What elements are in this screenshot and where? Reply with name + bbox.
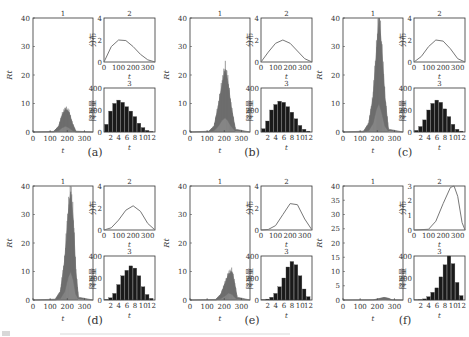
panel-title: 1 [61, 178, 65, 186]
histogram-bar [423, 299, 427, 300]
panel-3-rainfall-histogram [414, 88, 465, 132]
subfigure-svg: 01020304001002003001Rtt02401002003002分布t… [0, 168, 158, 336]
y-axis-label: Rt [162, 70, 171, 81]
x-axis-label: t [285, 144, 288, 152]
panel-1-rt-plot [33, 186, 93, 300]
x-tick-label: 200 [218, 135, 231, 143]
x-tick-label: 300 [388, 135, 401, 143]
y-tick-label: 30 [178, 43, 187, 51]
y-tick-label: 4 [255, 183, 260, 191]
y-axis-label: 分布 [398, 33, 407, 47]
y-tick-label: 25 [331, 225, 340, 233]
x-tick-label: 0 [188, 135, 192, 143]
y-tick-label: 0 [336, 297, 340, 305]
panel-title: 3 [284, 80, 288, 88]
x-tick-label: 2 [108, 134, 112, 142]
y-tick-label: 2 [255, 37, 259, 45]
y-axis-label: 降雨量 [88, 268, 97, 289]
x-tick-label: 100 [353, 303, 366, 311]
y-tick-label: 400 [246, 253, 259, 261]
x-tick-label: 0 [412, 232, 416, 240]
subfigure-svg: 01020304001002003001Rtt02401002003002分布t… [0, 0, 158, 168]
histogram-bar [427, 297, 431, 300]
y-tick-label: 40 [178, 15, 187, 23]
x-tick-label: 100 [269, 64, 282, 72]
x-tick-label: 6 [125, 302, 130, 310]
x-tick-label: 6 [125, 134, 130, 142]
histogram-bar [282, 278, 286, 300]
subfigure-c: 01020304001002003001Rtt02401002003002分布t… [310, 0, 468, 168]
x-tick-label: 300 [78, 303, 91, 311]
subfigure-caption: (d) [75, 314, 115, 327]
y-tick-label: 0 [98, 297, 102, 305]
histogram-bar [451, 264, 455, 300]
x-tick-label: 0 [102, 64, 106, 72]
histogram-bar [415, 130, 419, 132]
subfigure-d: 01020304001002003001Rtt02401002003002分布t… [0, 168, 158, 336]
x-tick-label: 8 [133, 134, 137, 142]
y-tick-label: 4 [255, 15, 260, 23]
y-tick-label: 1 [408, 212, 412, 220]
histogram-bar [278, 287, 282, 300]
histogram-bar [274, 105, 278, 133]
y-tick-label: 10 [331, 268, 340, 276]
histogram-bar [145, 130, 149, 132]
histogram-bar [266, 299, 270, 300]
y-tick-label: 30 [21, 43, 30, 51]
panel-title: 3 [127, 80, 131, 88]
x-tick-label: 0 [412, 64, 416, 72]
x-tick-label: 4 [427, 134, 432, 142]
y-axis-label: 降雨量 [88, 100, 97, 121]
x-tick-label: 200 [283, 232, 296, 240]
panel-3-rainfall-histogram [261, 88, 312, 132]
histogram-bar [125, 107, 129, 132]
x-tick-label: 8 [290, 302, 294, 310]
histogram-bar [298, 125, 302, 132]
panel-title: 1 [61, 10, 65, 18]
histogram-bar [294, 265, 298, 300]
x-tick-label: 0 [31, 303, 35, 311]
y-axis-label: 降雨量 [398, 100, 407, 121]
x-axis-label: t [372, 315, 375, 323]
y-tick-label: 2 [98, 37, 102, 45]
histogram-bar [435, 100, 439, 132]
x-tick-label: 0 [259, 232, 263, 240]
y-tick-label: 0 [336, 129, 340, 137]
histogram-bar [109, 111, 113, 132]
y-tick-label: 20 [21, 240, 30, 248]
panel-3-rainfall-histogram [104, 88, 155, 132]
x-tick-label: 12 [457, 302, 466, 310]
y-tick-label: 400 [399, 253, 412, 261]
y-tick-label: 0 [255, 297, 259, 305]
x-tick-label: 300 [141, 64, 154, 72]
panel-2-distribution-plot [261, 18, 312, 62]
y-axis-label: Rt [5, 70, 14, 81]
y-tick-label: 20 [21, 72, 30, 80]
x-tick-label: 12 [457, 134, 466, 142]
histogram-bar [270, 110, 274, 132]
histogram-bar [133, 117, 137, 132]
histogram-bar [435, 288, 439, 300]
x-tick-label: 4 [274, 302, 279, 310]
panel-title: 2 [284, 178, 288, 186]
histogram-bar [427, 110, 431, 132]
x-axis-label: t [438, 312, 441, 320]
x-tick-label: 2 [418, 302, 422, 310]
subfigure-caption: (f) [385, 314, 425, 327]
y-tick-label: 40 [21, 183, 30, 191]
histogram-bar [141, 287, 145, 300]
histogram-bar [459, 131, 463, 132]
x-tick-label: 4 [274, 134, 279, 142]
histogram-bar [459, 296, 463, 300]
x-tick-label: 100 [422, 232, 435, 240]
y-tick-label: 10 [21, 268, 30, 276]
panel-title: 2 [127, 178, 131, 186]
y-tick-label: 5 [336, 282, 340, 290]
panel-title: 3 [437, 248, 441, 256]
x-tick-label: 4 [427, 302, 432, 310]
subfigure-caption: (a) [75, 146, 115, 159]
x-tick-label: 200 [218, 303, 231, 311]
x-tick-label: 100 [43, 303, 56, 311]
x-tick-label: 200 [371, 135, 384, 143]
x-tick-label: 200 [61, 135, 74, 143]
